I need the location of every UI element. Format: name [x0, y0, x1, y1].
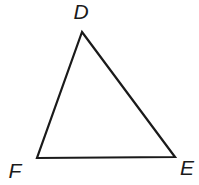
triangle-svg: D E F [0, 0, 199, 185]
triangle-def [37, 32, 175, 158]
triangle-diagram: D E F [0, 0, 199, 185]
vertex-label-e: E [180, 156, 195, 179]
vertex-label-f: F [9, 159, 23, 182]
vertex-label-d: D [73, 0, 88, 23]
